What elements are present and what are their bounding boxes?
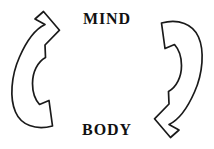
mind-body-cycle-diagram: MIND BODY bbox=[0, 0, 214, 149]
curved-arrow-up-icon bbox=[12, 12, 60, 128]
node-label-body: BODY bbox=[0, 122, 214, 138]
node-label-mind: MIND bbox=[0, 11, 214, 27]
curved-arrow-down-icon bbox=[155, 21, 203, 137]
